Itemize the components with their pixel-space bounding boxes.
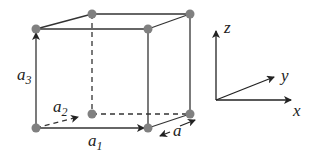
lattice-point (144, 124, 153, 133)
label-lattice-constant: a (173, 121, 182, 140)
edge-bottom-right (148, 114, 190, 128)
lattice-point (88, 110, 97, 119)
lattice-point (88, 10, 97, 19)
lattice-point (32, 25, 41, 34)
edge-top-right (148, 14, 190, 29)
edge-top-left (36, 14, 92, 29)
lattice-point (186, 110, 195, 119)
lattice-point (186, 10, 195, 19)
lattice-point (32, 124, 41, 133)
lattice-constant-arrow-right (180, 120, 195, 126)
y-axis-label: y (279, 66, 289, 85)
lattice-point (144, 25, 153, 34)
x-axis-label: x (292, 101, 301, 120)
lattice-constant-arrow-left (160, 132, 170, 136)
label-a2: a2 (53, 97, 68, 119)
y-axis (216, 77, 274, 100)
label-a1: a1 (88, 131, 103, 153)
lattice-diagram: a3 a2 a1 a z y x (0, 0, 316, 155)
label-a3: a3 (17, 65, 32, 87)
vector-a2-arrow (36, 117, 78, 128)
z-axis-label: z (223, 18, 231, 37)
coordinate-axes: z y x (216, 18, 301, 120)
